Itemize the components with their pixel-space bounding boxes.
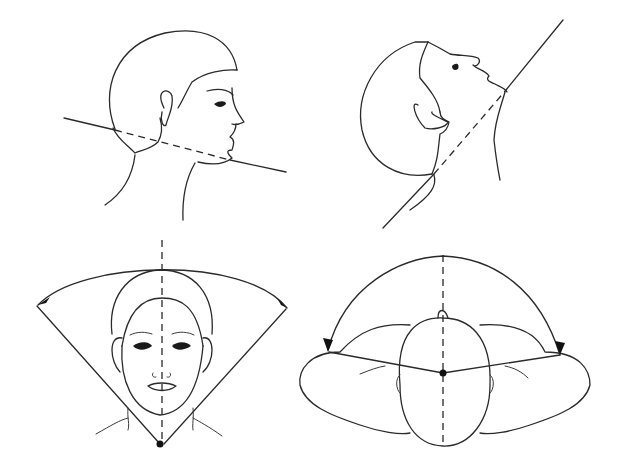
panel-frontal-lateral-flexion [37, 240, 287, 448]
panel-neutral-profile [64, 31, 286, 220]
figure-canvas [0, 0, 623, 468]
panel-extended-profile [361, 20, 563, 228]
arrow-left-icon-2 [323, 338, 333, 352]
panel-top-rotation [300, 255, 590, 447]
arrow-right-icon [277, 298, 287, 308]
range-of-motion-figure [0, 0, 623, 468]
